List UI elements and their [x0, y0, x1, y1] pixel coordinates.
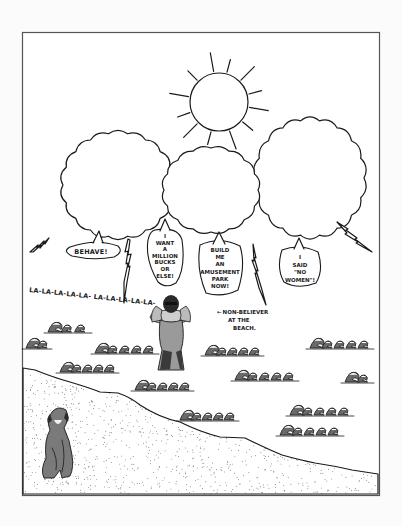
sand-dot: [308, 486, 309, 487]
sand-dot: [25, 439, 26, 440]
sand-dot: [237, 477, 238, 478]
sand-dot: [176, 470, 177, 471]
sand-dot: [210, 493, 211, 494]
sand-dot: [325, 479, 326, 480]
sand-dot: [227, 461, 228, 462]
sand-dot: [76, 387, 77, 388]
sand-dot: [219, 444, 220, 445]
sand-dot: [268, 488, 269, 489]
sand-dot: [166, 430, 167, 431]
sand-dot: [35, 460, 36, 461]
sand-dot: [225, 482, 226, 483]
sand-dot: [128, 409, 129, 410]
sand-dot: [137, 483, 138, 484]
sand-dot: [359, 480, 360, 481]
sand-dot: [74, 458, 75, 459]
sand-dot: [309, 464, 310, 465]
sand-dot: [114, 479, 115, 480]
sand-dot: [142, 409, 143, 410]
sand-dot: [160, 453, 161, 454]
sand-dot: [116, 402, 117, 403]
sand-dot: [158, 457, 159, 458]
sand-dot: [258, 467, 259, 468]
sand-dot: [145, 419, 146, 420]
sand-dot: [171, 471, 172, 472]
svg-text:BEACH.: BEACH.: [233, 325, 256, 331]
sand-dot: [33, 423, 34, 424]
cloud-left: [61, 130, 175, 239]
sand-dot: [226, 485, 227, 486]
sand-dot: [280, 456, 281, 457]
sand-dot: [120, 489, 121, 490]
sand-dot: [44, 398, 45, 399]
sand-dot: [37, 438, 38, 439]
sand-dot: [345, 477, 346, 478]
sand-dot: [39, 453, 40, 454]
sand-dot: [48, 481, 49, 482]
sand-dot: [149, 450, 150, 451]
sand-dot: [159, 483, 160, 484]
sand-dot: [321, 470, 322, 471]
sand-dot: [245, 492, 246, 493]
sand-dot: [28, 369, 29, 370]
sand-dot: [200, 485, 201, 486]
sand-dot: [72, 415, 73, 416]
sand-dot: [355, 490, 356, 491]
sand-dot: [124, 466, 125, 467]
sand-dot: [221, 470, 222, 471]
sand-dot: [76, 389, 77, 390]
sand-dot: [111, 427, 112, 428]
sand-dot: [129, 401, 130, 402]
sand-dot: [103, 437, 104, 438]
sand-dot: [87, 424, 88, 425]
sand-dot: [208, 457, 209, 458]
sand-dot: [26, 463, 27, 464]
sand-dot: [80, 427, 81, 428]
sand-dot: [232, 489, 233, 490]
sand-dot: [67, 483, 68, 484]
sand-dot: [143, 443, 144, 444]
sand-dot: [55, 405, 56, 406]
sand-dot: [235, 444, 236, 445]
sand-dot: [177, 465, 178, 466]
sand-dot: [121, 456, 122, 457]
sand-dot: [364, 477, 365, 478]
sand-dot: [167, 439, 168, 440]
sand-dot: [98, 430, 99, 431]
sand-dot: [125, 459, 126, 460]
sand-dot: [214, 436, 215, 437]
bubble-line: "NO: [294, 269, 306, 275]
sand-dot: [109, 435, 110, 436]
sand-dot: [30, 389, 31, 390]
sand-dot: [320, 473, 321, 474]
sand-dot: [106, 467, 107, 468]
sand-dot: [78, 403, 79, 404]
sand-dot: [127, 425, 128, 426]
sand-dot: [109, 393, 110, 394]
sand-dot: [68, 483, 69, 484]
sand-dot: [107, 397, 108, 398]
sand-dot: [114, 456, 115, 457]
sand-dot: [138, 411, 139, 412]
sand-dot: [275, 484, 276, 485]
sand-dot: [182, 430, 183, 431]
sand-dot: [41, 452, 42, 453]
sand-dot: [54, 392, 55, 393]
sand-dot: [243, 475, 244, 476]
sand-dot: [99, 408, 100, 409]
sand-dot: [116, 486, 117, 487]
bubble-text-behave: BEHAVE!: [74, 248, 107, 256]
sand-dot: [264, 455, 265, 456]
sand-dot: [31, 416, 32, 417]
sand-dot: [92, 466, 93, 467]
bubble-line: AN: [216, 261, 225, 267]
sand-dot: [302, 483, 303, 484]
sand-dot: [283, 475, 284, 476]
sand-dot: [104, 442, 105, 443]
sand-dot: [189, 492, 190, 493]
sand-dot: [265, 470, 266, 471]
sand-dot: [338, 487, 339, 488]
sand-dot: [26, 476, 27, 477]
sand-dot: [372, 489, 373, 490]
sand-dot: [78, 391, 79, 392]
